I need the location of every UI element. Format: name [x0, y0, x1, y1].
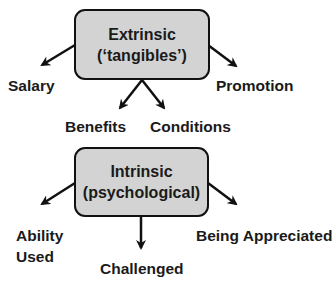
arrow-to-ability-used [42, 183, 75, 204]
label-ability-line2: Used [16, 247, 63, 266]
intrinsic-subtitle: (psychological) [83, 182, 200, 203]
arrow-to-conditions [142, 80, 164, 108]
extrinsic-title: Extrinsic [108, 24, 176, 45]
label-benefits: Benefits [65, 117, 126, 136]
arrow-to-being-appreciated [208, 183, 236, 204]
label-being-appreciated: Being Appreciated [196, 226, 332, 245]
arrow-to-promotion [208, 45, 236, 66]
intrinsic-title: Intrinsic [110, 161, 172, 182]
label-challenged: Challenged [100, 259, 184, 278]
label-ability-line1: Ability [16, 226, 63, 245]
label-conditions: Conditions [150, 117, 231, 136]
arrow-to-benefits [120, 80, 142, 108]
label-salary: Salary [8, 76, 55, 95]
label-ability-used: Ability Used [16, 226, 63, 266]
extrinsic-box: Extrinsic (‘tangibles’) [74, 9, 210, 80]
arrow-to-salary [42, 45, 75, 65]
label-promotion: Promotion [216, 76, 294, 95]
extrinsic-subtitle: (‘tangibles’) [97, 45, 187, 66]
intrinsic-box: Intrinsic (psychological) [74, 147, 209, 217]
